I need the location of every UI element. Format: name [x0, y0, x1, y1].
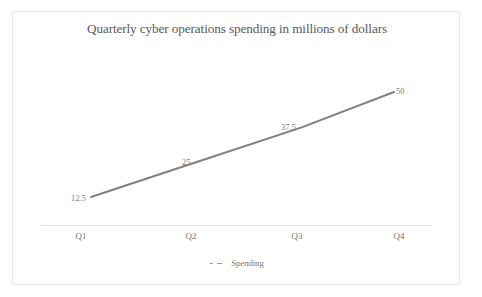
x-axis-label-q4: Q4 [379, 231, 419, 241]
legend-line-marker-icon [210, 260, 227, 266]
legend-label-spending: Spending [231, 258, 263, 268]
chart-legend: Spending [13, 258, 461, 268]
spending-series-line [91, 92, 394, 197]
x-axis-label-q2: Q2 [171, 231, 211, 241]
x-axis-label-q3: Q3 [277, 231, 317, 241]
data-label-q1: 12.5 [71, 193, 86, 203]
data-label-q3: 37.5 [281, 122, 296, 132]
line-chart-svg [13, 12, 461, 286]
data-label-q4: 50 [396, 86, 404, 96]
x-axis-label-q1: Q1 [61, 231, 101, 241]
data-label-q2: 25 [182, 157, 190, 167]
chart-container: Quarterly cyber operations spending in m… [12, 11, 460, 285]
plot-area: 12.5 25 37.5 50 Q1 Q2 Q3 Q4 Spending [13, 12, 461, 286]
